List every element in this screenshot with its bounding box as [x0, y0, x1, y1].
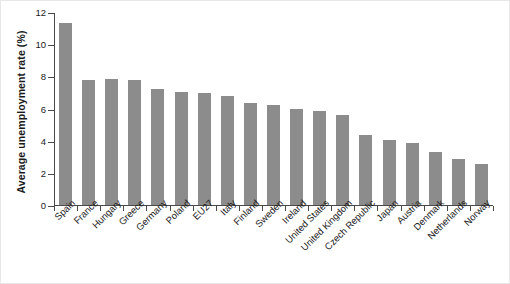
y-tick-label: 8 — [22, 72, 46, 82]
bar — [336, 115, 349, 205]
bar-chart-figure: Average unemployment rate (%) 024681012 … — [0, 0, 510, 284]
bar — [105, 79, 118, 205]
bar — [221, 96, 234, 205]
bar — [59, 23, 72, 205]
bar — [290, 109, 303, 206]
bar — [383, 140, 396, 205]
y-tick-mark — [48, 174, 54, 175]
x-tick-mark — [216, 206, 217, 211]
bar — [429, 152, 442, 205]
y-tick-mark — [48, 110, 54, 111]
bar — [244, 103, 257, 205]
bar — [267, 105, 280, 205]
bar — [82, 80, 95, 205]
y-tick-label: 12 — [22, 8, 46, 18]
x-tick-mark — [493, 206, 494, 211]
bar — [128, 80, 141, 205]
bar — [406, 143, 419, 205]
y-tick-label: 0 — [22, 201, 46, 211]
y-tick-label: 2 — [22, 169, 46, 179]
bar — [151, 89, 164, 205]
bar — [175, 92, 188, 205]
bar — [359, 135, 372, 205]
y-tick-mark — [48, 77, 54, 78]
bar — [313, 111, 326, 205]
bar — [198, 93, 211, 205]
y-axis-line — [54, 13, 55, 206]
y-tick-label: 4 — [22, 137, 46, 147]
y-tick-label: 10 — [22, 40, 46, 50]
plot-area: 024681012 — [54, 13, 493, 206]
y-tick-label: 6 — [22, 105, 46, 115]
y-tick-mark — [48, 142, 54, 143]
y-tick-mark — [48, 45, 54, 46]
y-tick-mark — [48, 13, 54, 14]
